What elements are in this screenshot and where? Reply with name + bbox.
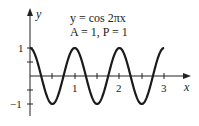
y-tick-label-minus1: −1 <box>10 98 22 110</box>
x-tick-label-1: 1 <box>72 82 78 94</box>
equation-label: y = cos 2πx <box>70 11 126 25</box>
x-tick-label-3: 3 <box>161 82 167 94</box>
y-axis-arrow-icon <box>27 8 33 16</box>
x-axis-arrow-icon <box>183 73 191 79</box>
x-tick-label-2: 2 <box>116 82 122 94</box>
x-axis-label: x <box>183 80 190 94</box>
y-axis-label: y <box>35 7 42 21</box>
y-tick-label-1: 1 <box>18 42 24 54</box>
params-label: A = 1, P = 1 <box>70 25 128 39</box>
cosine-graph: y x 1 2 3 1 −1 y = cos 2πx A = 1, P = 1 <box>0 0 199 126</box>
